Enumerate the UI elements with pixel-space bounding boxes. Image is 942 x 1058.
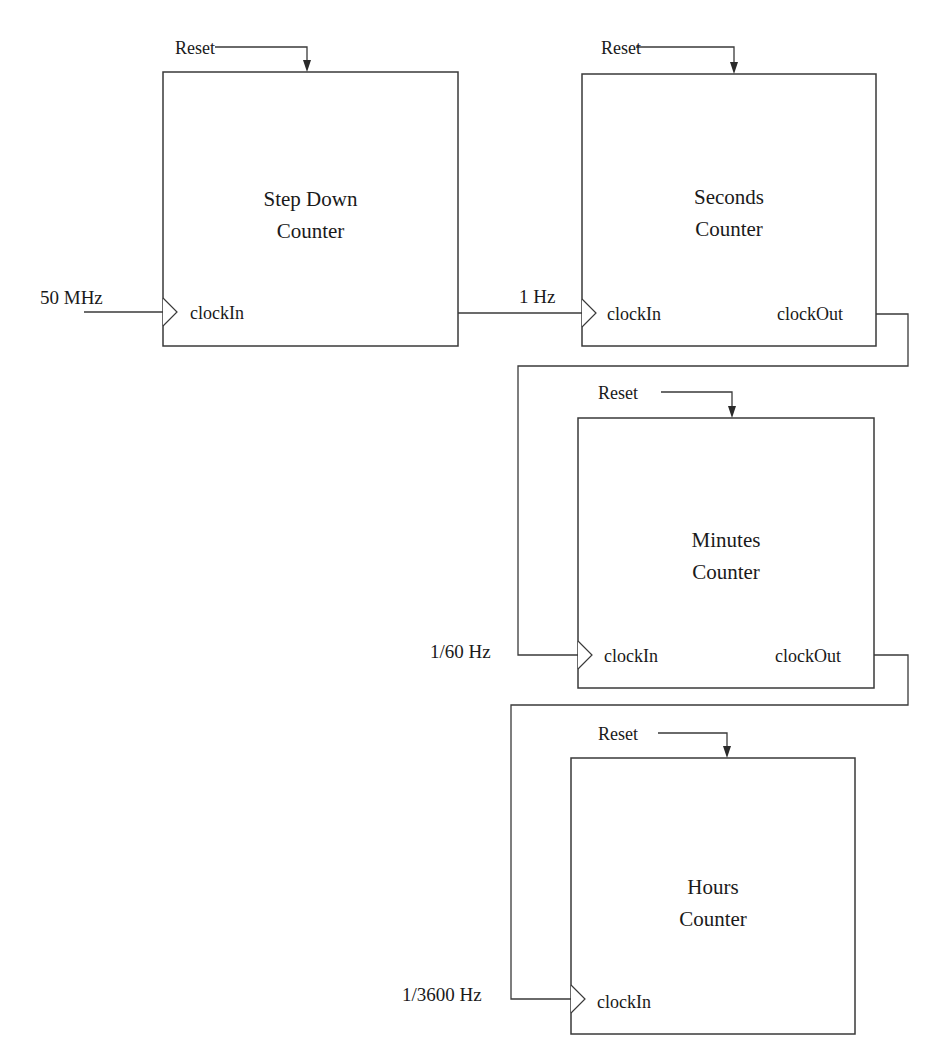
hours-clockin-port: clockIn — [597, 993, 651, 1011]
seconds-clockout-port: clockOut — [777, 305, 843, 323]
block-title-line1: Step Down — [163, 183, 458, 215]
seconds-counter-title: Seconds Counter — [582, 181, 876, 245]
block-title-line1: Hours — [571, 871, 855, 903]
block-title-line2: Counter — [582, 213, 876, 245]
step-down-reset-label: Reset — [175, 39, 215, 57]
seconds-clockin-port: clockIn — [607, 305, 661, 323]
hours-reset-label: Reset — [598, 725, 638, 743]
seconds-reset-label: Reset — [601, 39, 641, 57]
block-title-line2: Counter — [578, 556, 874, 588]
signal-label-50mhz: 50 MHz — [40, 288, 103, 307]
block-title-line1: Minutes — [578, 524, 874, 556]
block-title-line1: Seconds — [582, 181, 876, 213]
signal-label-1-60hz: 1/60 Hz — [430, 642, 491, 661]
reset-wire — [636, 47, 734, 62]
minutes-clockin-port: clockIn — [604, 647, 658, 665]
reset-wire — [215, 47, 307, 62]
reset-wire — [658, 733, 727, 746]
block-title-line2: Counter — [571, 903, 855, 935]
step-down-counter-title: Step Down Counter — [163, 183, 458, 247]
hours-counter-title: Hours Counter — [571, 871, 855, 935]
arrow-down-icon — [728, 406, 736, 418]
step-down-clockin-port: clockIn — [190, 304, 244, 322]
minutes-reset-label: Reset — [598, 384, 638, 402]
arrow-down-icon — [303, 60, 311, 72]
arrow-down-icon — [723, 746, 731, 758]
minutes-counter-title: Minutes Counter — [578, 524, 874, 588]
minutes-clockout-port: clockOut — [775, 647, 841, 665]
reset-wire — [661, 392, 732, 406]
signal-label-1-3600hz: 1/3600 Hz — [402, 985, 482, 1004]
block-title-line2: Counter — [163, 215, 458, 247]
signal-label-1hz: 1 Hz — [519, 287, 555, 306]
arrow-down-icon — [730, 62, 738, 74]
